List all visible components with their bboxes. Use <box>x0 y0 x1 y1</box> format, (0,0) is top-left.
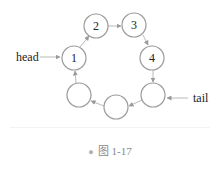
node-3: 3 <box>122 13 146 37</box>
figure-caption: ●图 1-17 <box>0 142 220 158</box>
tail-label: tail <box>193 91 209 105</box>
node-7-empty <box>67 83 91 107</box>
node-4: 4 <box>140 46 164 70</box>
edge-6-to-7 <box>91 101 104 106</box>
node-2-label: 2 <box>93 19 99 33</box>
node-5-empty <box>141 83 165 107</box>
head-label: head <box>16 50 39 64</box>
edge-7-to-1 <box>75 71 76 83</box>
node-4-label: 4 <box>149 51 155 65</box>
edge-1-to-2 <box>80 36 89 47</box>
node-1-label: 1 <box>71 51 77 65</box>
faint-divider <box>10 127 210 128</box>
edge-5-to-6 <box>129 100 142 106</box>
node-1: 1 <box>62 46 86 70</box>
edge-3-to-4 <box>143 35 148 45</box>
node-2: 2 <box>84 14 108 38</box>
node-3-label: 3 <box>131 18 137 32</box>
caption-bullet-icon: ● <box>88 147 93 157</box>
caption-text: 图 1-17 <box>98 145 132 157</box>
node-6-empty <box>104 95 128 119</box>
